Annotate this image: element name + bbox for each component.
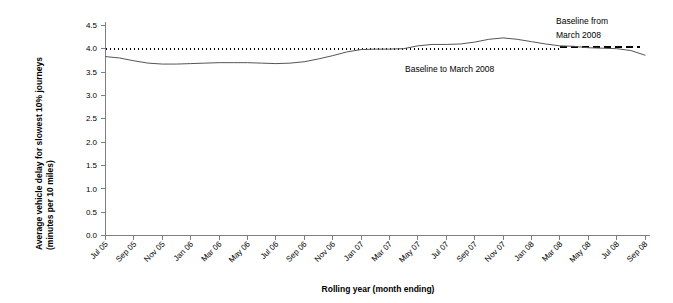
x-tick-label-6: Jul 06: [259, 239, 281, 261]
y-axis-ticks: 0.0 0.5 1.0 1.5 2.0 2.5 3.0 3.5 4.0 4.5: [86, 21, 106, 240]
x-tick-label-4: Mar 06: [200, 239, 224, 263]
x-tick-label-18: Jul 08: [600, 239, 622, 261]
line-chart: Average vehicle delay for slowest 10% jo…: [0, 0, 673, 303]
chart-container: Average vehicle delay for slowest 10% jo…: [0, 0, 673, 303]
x-tick-label-5: May 06: [227, 239, 252, 264]
annotation-baseline-to: Baseline to March 2008: [405, 64, 495, 74]
x-tick-label-12: Jul 07: [429, 239, 451, 261]
x-tick-label-16: Mar 08: [540, 239, 564, 263]
x-tick-label-17: May 08: [568, 239, 593, 264]
x-tick-label-15: Jan 08: [512, 239, 536, 263]
x-tick-label-9: Jan 07: [342, 239, 366, 263]
x-tick-label-1: Sep 05: [114, 239, 139, 264]
y-tick-label-1: 0.5: [86, 208, 98, 217]
x-tick-label-0: Jul 05: [88, 239, 110, 261]
x-tick-label-8: Nov 06: [313, 239, 338, 264]
x-tick-label-10: Mar 07: [370, 239, 394, 263]
x-axis-title: Rolling year (month ending): [322, 284, 435, 294]
y-tick-label-0: 0.0: [86, 231, 98, 240]
y-axis-title-line2: (minutes per 10 miles): [45, 160, 55, 250]
y-tick-label-7: 3.5: [86, 68, 98, 77]
x-tick-label-3: Jan 06: [172, 239, 196, 263]
x-axis-ticks: [106, 236, 646, 241]
x-tick-label-13: Sep 07: [455, 239, 480, 264]
y-tick-label-4: 2.0: [86, 138, 98, 147]
baseline-from-march-2008-label-line2: March 2008: [556, 30, 601, 40]
y-tick-label-8: 4.0: [86, 44, 98, 53]
y-axis-title-line1: Average vehicle delay for slowest 10% jo…: [34, 57, 44, 250]
y-tick-label-3: 1.5: [86, 161, 98, 170]
baseline-to-march-2008-label: Baseline to March 2008: [405, 64, 495, 74]
x-axis-labels: Jul 05Sep 05Nov 05Jan 06Mar 06May 06Jul …: [88, 239, 649, 264]
baseline-from-march-2008-label-line1: Baseline from: [556, 16, 608, 26]
x-tick-label-14: Nov 07: [483, 239, 508, 264]
y-tick-label-2: 1.0: [86, 185, 98, 194]
x-tick-label-11: May 07: [397, 239, 422, 264]
axes: [106, 22, 651, 236]
x-tick-label-19: Sep 08: [625, 239, 650, 264]
y-tick-label-5: 2.5: [86, 114, 98, 123]
y-axis-title: Average vehicle delay for slowest 10% jo…: [34, 57, 55, 250]
delay-series-line: [106, 38, 646, 64]
x-tick-label-7: Sep 06: [284, 239, 309, 264]
annotation-baseline-from: Baseline from March 2008: [556, 16, 608, 40]
x-tick-label-2: Nov 05: [142, 239, 167, 264]
y-tick-label-9: 4.5: [86, 21, 98, 30]
y-tick-label-6: 3.0: [86, 91, 98, 100]
